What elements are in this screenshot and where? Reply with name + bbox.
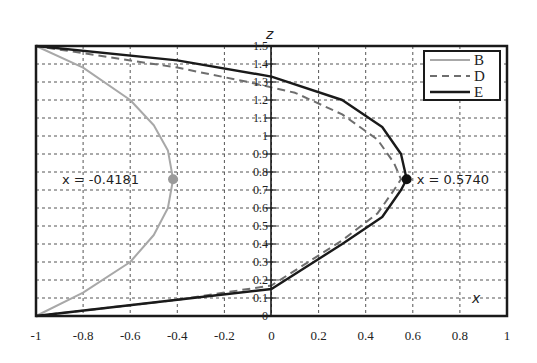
chart: 00.10.20.30.40.50.60.70.80.911.11.21.31.… xyxy=(0,0,537,363)
y-tick-label: 1.1 xyxy=(253,111,268,125)
marker-e xyxy=(402,174,412,184)
y-tick-label: 0.4 xyxy=(253,237,268,251)
y-tick-label: 0.2 xyxy=(253,273,268,287)
x-axis-label: x xyxy=(471,290,481,306)
y-tick-label: 0.3 xyxy=(253,255,268,269)
z-axis-label: z xyxy=(265,26,274,42)
x-tick-label: -0.6 xyxy=(120,328,141,343)
legend-label-e: E xyxy=(474,84,483,100)
y-tick-label: 0.7 xyxy=(253,183,268,197)
x-tick-label: -1 xyxy=(31,328,42,343)
y-tick-label: 0.9 xyxy=(253,147,268,161)
y-tick-label: 1.4 xyxy=(253,57,268,71)
x-tick-labels: -1-0.8-0.6-0.4-0.200.20.40.60.81 xyxy=(31,328,511,343)
y-tick-label: 0.6 xyxy=(253,201,268,215)
x-tick-label: -0.2 xyxy=(214,328,235,343)
legend-label-d: D xyxy=(474,68,485,84)
x-tick-label: 0.8 xyxy=(452,328,468,343)
x-tick-label: 0.4 xyxy=(358,328,375,343)
annotation-b: x = -0.4181 xyxy=(62,172,139,187)
x-tick-label: -0.8 xyxy=(73,328,94,343)
y-tick-label: 1.2 xyxy=(253,93,268,107)
annotations: x = -0.4181x = 0.5740 xyxy=(62,172,489,187)
y-tick-label: 1.3 xyxy=(253,75,268,89)
y-tick-label: 0.8 xyxy=(253,165,268,179)
y-tick-label: 0.1 xyxy=(253,291,268,305)
legend-label-b: B xyxy=(474,52,484,68)
x-tick-label: 1 xyxy=(504,328,511,343)
y-tick-labels: 00.10.20.30.40.50.60.70.80.911.11.21.31.… xyxy=(253,39,276,323)
annotation-e: x = 0.5740 xyxy=(417,172,489,187)
x-tick-label: 0.6 xyxy=(405,328,422,343)
marker-b xyxy=(168,174,178,184)
x-tick-label: -0.4 xyxy=(167,328,188,343)
y-tick-label: 0.5 xyxy=(253,219,268,233)
x-tick-label: 0 xyxy=(268,328,275,343)
legend: BDE xyxy=(424,51,500,100)
x-tick-label: 0.2 xyxy=(310,328,326,343)
